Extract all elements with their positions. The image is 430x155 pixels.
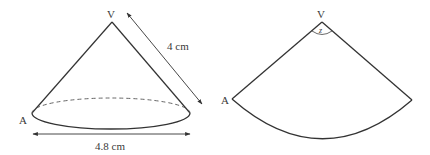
- diagram-canvas: V A 4 cm 4.8 cm V A z: [0, 0, 430, 155]
- sector-point-a-label: A: [221, 94, 229, 106]
- sector-net-figure: V A z: [221, 8, 412, 139]
- sector-right-radius: [322, 22, 412, 100]
- cone-apex-label: V: [107, 8, 115, 20]
- cone-right-slant-edge: [112, 22, 190, 113]
- diameter-label: 4.8 cm: [95, 140, 125, 152]
- sector-angle-label: z: [318, 26, 323, 35]
- sector-left-radius: [232, 22, 322, 99]
- cone-base-front: [32, 113, 190, 129]
- sector-apex-label: V: [317, 8, 325, 20]
- cone-base-back-dashed: [32, 98, 190, 113]
- slant-height-arrow: [127, 13, 202, 104]
- cone-point-a-label: A: [19, 114, 27, 126]
- slant-height-label: 4 cm: [167, 40, 189, 52]
- cone-left-slant-edge: [32, 22, 112, 113]
- cone-figure: V A 4 cm 4.8 cm: [19, 8, 202, 152]
- sector-arc: [232, 99, 412, 139]
